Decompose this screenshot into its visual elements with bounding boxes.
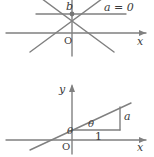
label-b-top: b [66, 1, 73, 12]
label-angle-theta-lower: θ [67, 126, 73, 136]
math-figure: b O x a = 0 y x O [0, 0, 154, 157]
label-x-axis-top: x [137, 36, 143, 47]
diagram-bottom-canvas [0, 78, 154, 157]
y-axis-arrowhead-bottom [69, 84, 75, 92]
label-rise-a: a [124, 111, 131, 122]
label-angle-theta-upper: θ [88, 119, 94, 129]
diagram-top-pencil-of-lines: b O x a = 0 [0, 0, 154, 78]
label-run-one: 1 [95, 131, 102, 142]
slanted-line [30, 103, 131, 150]
label-origin-top: O [64, 36, 72, 46]
diagram-bottom-slope-triangle: y x O θ θ 1 a [0, 78, 154, 157]
label-origin-bottom: O [62, 142, 70, 152]
label-condition-a-equals-zero: a = 0 [104, 2, 134, 13]
label-x-axis-bottom: x [137, 142, 143, 153]
label-y-axis-bottom: y [59, 84, 65, 95]
